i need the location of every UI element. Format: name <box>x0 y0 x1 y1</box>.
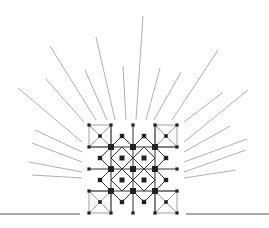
node <box>87 123 90 126</box>
node <box>98 134 102 138</box>
ray-line <box>146 68 160 120</box>
node <box>120 134 124 138</box>
ray-line <box>96 37 115 120</box>
diagram-canvas <box>0 0 269 228</box>
ray-line <box>184 150 246 172</box>
node <box>131 123 134 126</box>
ray-line <box>32 175 82 178</box>
node <box>130 188 136 194</box>
node <box>98 200 102 204</box>
node <box>142 156 147 161</box>
ray-line <box>46 79 84 122</box>
node <box>142 200 146 204</box>
node <box>130 144 136 150</box>
node <box>87 189 90 192</box>
ray-line <box>32 143 82 162</box>
node <box>98 178 102 182</box>
ray-line <box>184 139 247 162</box>
node <box>120 200 124 204</box>
node <box>175 211 178 214</box>
node <box>108 188 114 194</box>
node <box>109 123 112 126</box>
node <box>175 145 178 148</box>
ray-line <box>184 170 236 178</box>
node <box>87 167 90 170</box>
node <box>164 156 168 160</box>
node <box>175 123 178 126</box>
lattice-diagram <box>0 0 269 228</box>
ray-line <box>184 93 222 122</box>
node <box>153 211 156 214</box>
node <box>153 123 156 126</box>
node <box>87 145 90 148</box>
node <box>142 178 147 183</box>
ray-line <box>85 70 107 120</box>
node <box>87 211 90 214</box>
node <box>152 166 158 172</box>
ray-line <box>136 16 143 120</box>
node <box>152 144 158 150</box>
node <box>152 188 158 194</box>
node <box>142 134 146 138</box>
node <box>130 166 136 172</box>
node <box>175 167 178 170</box>
node <box>109 211 112 214</box>
ray-line <box>172 50 218 120</box>
node <box>108 166 114 172</box>
ray-line <box>123 66 126 120</box>
ray-line <box>50 46 96 120</box>
node <box>164 200 168 204</box>
node <box>98 156 102 160</box>
ray-line <box>18 88 82 142</box>
node <box>108 144 114 150</box>
node <box>164 134 168 138</box>
node <box>175 189 178 192</box>
ray-line <box>29 162 82 172</box>
ray-line <box>35 130 82 152</box>
node <box>131 211 134 214</box>
node <box>120 156 125 161</box>
node <box>120 178 125 183</box>
node <box>164 178 168 182</box>
